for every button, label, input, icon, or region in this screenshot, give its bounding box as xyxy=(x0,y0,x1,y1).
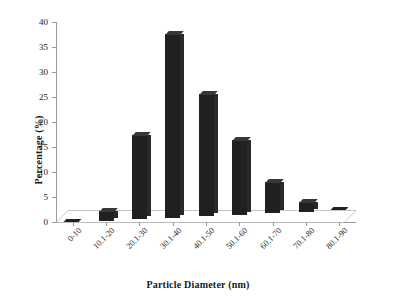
y-tick-0 xyxy=(52,222,57,223)
bar-front-face xyxy=(232,140,247,215)
bar-flat-face xyxy=(330,207,348,210)
y-tick-label-15: 15 xyxy=(22,143,48,152)
bar-front-face xyxy=(299,202,314,212)
bar-front-face xyxy=(165,34,180,218)
bar-side-face xyxy=(247,140,251,212)
bar-80.1-90 xyxy=(332,207,347,210)
bar-60.1-70 xyxy=(265,182,280,214)
bar-side-face xyxy=(180,34,184,215)
bar-front-face xyxy=(265,182,280,214)
bar-30.1-40 xyxy=(165,34,180,218)
y-tick-label-30: 30 xyxy=(22,68,48,77)
bar-front-face xyxy=(99,211,114,221)
bar-0-10 xyxy=(65,219,80,222)
bar-70.1-80 xyxy=(299,202,314,212)
y-tick-label-20: 20 xyxy=(22,118,48,127)
bar-50.1-60 xyxy=(232,140,247,215)
bar-10.1-20 xyxy=(99,211,114,221)
bar-side-face xyxy=(114,211,118,218)
bar-side-face xyxy=(314,202,318,209)
bar-40.1-50 xyxy=(199,94,214,216)
bar-front-face xyxy=(199,94,214,216)
x-axis-title: Particle Diameter (nm) xyxy=(0,279,396,290)
bar-side-face xyxy=(147,135,151,216)
bar-side-face xyxy=(280,182,284,211)
particle-size-distribution-chart: Percentage (%) 0510152025303540 0-1010.1… xyxy=(0,0,396,300)
y-tick-label-40: 40 xyxy=(22,18,48,27)
bar-front-face xyxy=(132,135,147,219)
bar-20.1-30 xyxy=(132,135,147,219)
y-tick-label-25: 25 xyxy=(22,93,48,102)
y-tick-label-35: 35 xyxy=(22,43,48,52)
bar-side-face xyxy=(214,94,218,213)
plot-area xyxy=(56,22,356,222)
x-axis-category-labels: 0-1010.1-2020.1-3030.1-4040.1-5050.1-606… xyxy=(56,224,356,284)
y-tick-label-0: 0 xyxy=(22,218,48,227)
y-tick-label-10: 10 xyxy=(22,168,48,177)
bar-flat-face xyxy=(64,219,82,222)
y-tick-label-5: 5 xyxy=(22,193,48,202)
